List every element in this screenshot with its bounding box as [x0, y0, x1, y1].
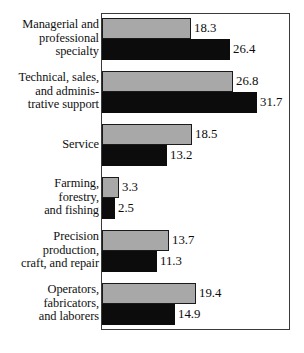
- category-label-line: Operators,: [0, 283, 99, 297]
- bar-lower[interactable]: [102, 145, 167, 166]
- bar-lower[interactable]: [102, 39, 230, 60]
- category-label-line: production,: [0, 244, 99, 258]
- bar-lower[interactable]: [102, 198, 115, 219]
- bar-upper[interactable]: [102, 71, 233, 92]
- bar-upper[interactable]: [102, 283, 196, 304]
- bar-upper[interactable]: [102, 177, 119, 198]
- bar-value-lower: 31.7: [257, 96, 282, 109]
- bar-value-lower: 14.9: [175, 308, 200, 321]
- bar-value-upper: 18.5: [192, 128, 217, 141]
- bar-value-upper: 19.4: [196, 287, 221, 300]
- category-label-line: and laborers: [0, 310, 99, 324]
- category-label-line: Service: [0, 138, 99, 152]
- category-label-line: fabricators,: [0, 297, 99, 311]
- category-label-line: forestry,: [0, 191, 99, 205]
- category-label: Operators, fabricators, and laborers: [0, 283, 99, 324]
- category-label-line: Precision: [0, 230, 99, 244]
- category-label: Service: [0, 138, 99, 152]
- category-label: Technical, sales, and adminis- trative s…: [0, 71, 99, 112]
- bar-lower[interactable]: [102, 304, 175, 325]
- bar-chart-figure: Managerial and professional specialty 18…: [0, 0, 304, 353]
- bar-value-lower: 2.5: [115, 202, 134, 215]
- bar-value-upper: 26.8: [233, 75, 258, 88]
- category-label-line: specialty: [0, 45, 99, 59]
- category-label-line: and fishing: [0, 204, 99, 218]
- bar-upper[interactable]: [102, 124, 192, 145]
- bar-upper[interactable]: [102, 230, 169, 251]
- category-label-line: Managerial and: [0, 18, 99, 32]
- category-label: Managerial and professional specialty: [0, 18, 99, 59]
- bar-value-lower: 11.3: [157, 255, 182, 268]
- category-label-line: craft, and repair: [0, 257, 99, 271]
- bar-value-upper: 13.7: [169, 234, 194, 247]
- bar-value-lower: 13.2: [167, 149, 192, 162]
- category-label-line: Technical, sales,: [0, 71, 99, 85]
- category-label: Farming, forestry, and fishing: [0, 177, 99, 218]
- bar-upper[interactable]: [102, 18, 191, 39]
- category-label-line: Farming,: [0, 177, 99, 191]
- category-label-line: trative support: [0, 98, 99, 112]
- bar-lower[interactable]: [102, 251, 157, 272]
- bar-value-upper: 3.3: [119, 181, 138, 194]
- category-label-line: and adminis-: [0, 85, 99, 99]
- category-label-line: professional: [0, 32, 99, 46]
- bar-value-upper: 18.3: [191, 22, 216, 35]
- bar-lower[interactable]: [102, 92, 257, 113]
- category-label: Precision production, craft, and repair: [0, 230, 99, 271]
- bar-value-lower: 26.4: [230, 43, 255, 56]
